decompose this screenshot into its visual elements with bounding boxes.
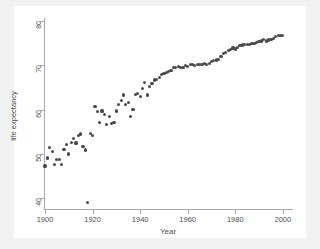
data-point [74,141,77,144]
x-tick-label: 1980 [227,215,244,224]
data-point [51,150,54,153]
data-point [65,143,68,146]
data-point [84,148,87,151]
data-point [117,103,120,106]
data-point [48,146,51,149]
data-point [46,156,49,159]
x-tick-label: 1900 [37,215,54,224]
data-point [93,105,96,108]
x-axis-label: Year [160,227,176,236]
y-axis-label: life expectancy [9,91,18,141]
data-point [122,93,125,96]
data-point [158,76,161,79]
data-point [127,101,130,104]
data-point [141,87,144,90]
figure: 4050607080 190019201940196019802000 life… [0,0,320,249]
y-tick-label: 70 [36,65,43,73]
data-point [115,109,118,112]
data-point [148,85,151,88]
x-tick-label: 1920 [84,215,101,224]
data-point [281,34,284,37]
x-tick-label: 1960 [179,215,196,224]
data-point [70,141,73,144]
x-axis-line [44,209,293,210]
data-point [67,152,70,155]
data-point [98,121,101,124]
y-tick-label: 50 [36,154,43,162]
data-point [53,163,56,166]
data-point [103,113,106,116]
data-point [96,110,99,113]
data-point [169,69,172,72]
data-point [86,201,89,204]
data-point [219,55,222,58]
x-tick-label: 1940 [132,215,149,224]
data-point [91,134,94,137]
y-tick-label: 80 [36,21,43,29]
data-point [79,132,82,135]
y-tick-label: 40 [36,198,43,206]
y-tick-label-wrap: 60 [26,105,39,115]
y-tick-label-wrap: 70 [26,60,39,70]
data-point [105,123,108,126]
data-point [60,163,63,166]
y-tick-label-wrap: 50 [26,149,39,159]
x-tick-mark [140,210,141,214]
data-point [62,148,65,151]
data-point [150,82,153,85]
x-tick-mark [283,210,284,214]
x-tick-mark [235,210,236,214]
data-point [129,115,132,118]
data-point [139,95,142,98]
data-point [58,158,61,161]
data-point [43,164,46,167]
x-tick-mark [93,210,94,214]
data-point [72,137,75,140]
data-point [146,93,149,96]
data-point [120,99,123,102]
data-point [131,108,134,111]
y-tick-label-wrap: 80 [26,16,39,26]
data-point [112,121,115,124]
data-point [108,115,111,118]
y-tick-label-wrap: 40 [26,193,39,203]
x-tick-mark [45,210,46,214]
scatter-series [45,21,290,209]
x-tick-mark [188,210,189,214]
data-point [143,81,146,84]
y-tick-label: 60 [36,110,43,118]
x-tick-label: 2000 [275,215,292,224]
